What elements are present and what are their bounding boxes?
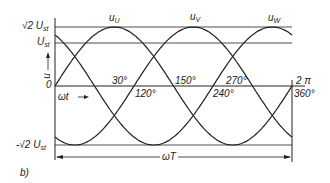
arrow-up-icon xyxy=(46,52,50,58)
arrow-right-icon xyxy=(284,155,291,159)
label-omega-T: ωT xyxy=(160,152,178,162)
label-240: 240° xyxy=(213,89,234,99)
label-zero: 0 xyxy=(46,80,52,90)
arrow-right-small-icon xyxy=(84,95,89,99)
label-360: 360° xyxy=(294,89,315,99)
label-150: 150° xyxy=(175,76,196,86)
label-ust: Ust xyxy=(37,37,50,48)
label-u-v: uV xyxy=(190,12,200,23)
label-270: 270° xyxy=(226,76,247,86)
arrow-left-icon xyxy=(56,155,63,159)
three-phase-voltage-diagram: uU uV uW √2 Ust Ust -√2 Ust 0 u 30° 120°… xyxy=(0,0,330,183)
label-omega-t: ωt xyxy=(58,92,69,102)
label-u-u: uU xyxy=(109,13,120,24)
label-120: 120° xyxy=(135,89,156,99)
label-peak: √2 Ust xyxy=(22,21,49,32)
label-neg-peak: -√2 Ust xyxy=(16,140,46,151)
label-2pi: 2 π xyxy=(296,76,311,86)
caption: b) xyxy=(20,168,29,178)
label-u-axis: u xyxy=(42,73,52,79)
label-u-w: uW xyxy=(268,13,280,24)
label-30: 30° xyxy=(112,76,127,86)
